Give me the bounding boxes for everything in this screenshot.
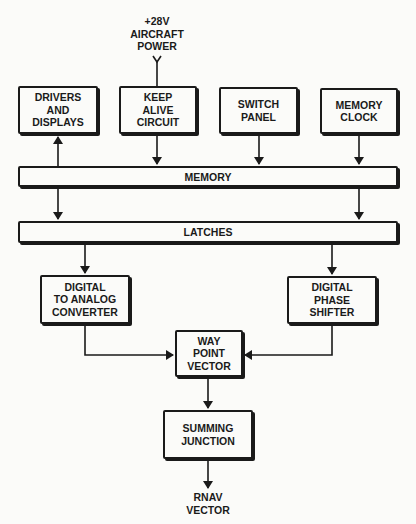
dac-block: DIGITAL TO ANALOG CONVERTER [40,275,130,324]
antenna-icon [153,56,161,62]
rnav-vector-output-label: RNAV VECTOR [168,491,248,516]
switch-panel-block: SWITCH PANEL [219,87,298,134]
latches-bar: LATCHES [18,221,398,243]
power-input-label: +28V AIRCRAFT POWER [117,15,197,53]
summing-junction-block: SUMMING JUNCTION [163,410,253,459]
keep-alive-circuit-block: KEEP ALIVE CIRCUIT [119,86,197,134]
phase-shifter-block: DIGITAL PHASE SHIFTER [287,276,377,324]
memory-bar: MEMORY [18,166,398,187]
way-point-vector-block: WAY POINT VECTOR [175,330,243,377]
memory-clock-block: MEMORY CLOCK [320,88,398,134]
drivers-displays-block: DRIVERS AND DISPLAYS [18,86,98,134]
